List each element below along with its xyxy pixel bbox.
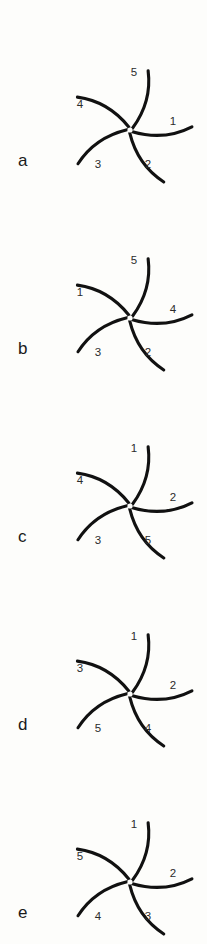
sector-label: 3 — [95, 346, 101, 358]
pinwheel-arm-4 — [78, 318, 127, 352]
pinwheel-arm-1 — [132, 447, 148, 505]
sector-label: 1 — [77, 286, 83, 298]
sector-label: 1 — [131, 442, 137, 454]
sector-label: 3 — [95, 158, 101, 170]
pinwheel-diagram-a: 12345 — [0, 0, 207, 188]
pinwheel-hub — [127, 879, 132, 884]
panel-b: b42315 — [0, 188, 207, 376]
pinwheel-arm-2 — [132, 879, 191, 888]
pinwheel-diagram-b: 42315 — [0, 188, 207, 376]
pinwheel-arm-2 — [132, 315, 191, 324]
pinwheel-diagram-d: 24531 — [0, 564, 207, 752]
panel-a: a12345 — [0, 0, 207, 188]
pinwheel-arm-5 — [77, 97, 129, 127]
sector-label: 2 — [170, 491, 176, 503]
panel-c: c25341 — [0, 376, 207, 564]
pinwheel-hub — [127, 691, 132, 696]
pinwheel-diagram-e: 23451 — [0, 752, 207, 940]
pinwheel-arm-2 — [132, 691, 191, 700]
sector-label: 4 — [77, 474, 84, 486]
sector-label: 4 — [170, 303, 177, 315]
sector-label: 3 — [95, 534, 101, 546]
sector-label: 2 — [145, 346, 151, 358]
pinwheel-arm-1 — [132, 635, 148, 693]
figure-root: a12345b42315c25341d24531e23451 — [0, 0, 207, 944]
pinwheel-arm-4 — [78, 506, 127, 540]
sector-label: 2 — [145, 158, 151, 170]
pinwheel-arm-2 — [132, 127, 191, 136]
pinwheel-arm-4 — [78, 882, 127, 916]
pinwheel-arm-2 — [132, 503, 191, 512]
sector-label: 4 — [95, 910, 102, 922]
sector-label: 4 — [77, 98, 84, 110]
sector-label: 5 — [95, 722, 101, 734]
pinwheel-arm-5 — [77, 473, 129, 503]
pinwheel-arm-4 — [78, 130, 127, 164]
pinwheel-arm-5 — [77, 661, 129, 691]
sector-label: 5 — [77, 850, 83, 862]
pinwheel-hub — [127, 503, 132, 508]
sector-label: 3 — [145, 910, 151, 922]
panel-d: d24531 — [0, 564, 207, 752]
panel-e: e23451 — [0, 752, 207, 940]
pinwheel-arm-1 — [132, 823, 148, 881]
pinwheel-arm-1 — [132, 71, 148, 129]
sector-label: 1 — [131, 818, 137, 830]
sector-label: 5 — [145, 534, 151, 546]
pinwheel-arm-5 — [77, 849, 129, 879]
sector-label: 5 — [131, 254, 137, 266]
pinwheel-arm-5 — [77, 285, 129, 315]
sector-label: 2 — [170, 867, 176, 879]
sector-label: 3 — [77, 662, 83, 674]
sector-label: 4 — [145, 722, 152, 734]
pinwheel-diagram-c: 25341 — [0, 376, 207, 564]
sector-label: 1 — [170, 115, 176, 127]
pinwheel-hub — [127, 315, 132, 320]
pinwheel-arm-1 — [132, 259, 148, 317]
pinwheel-arm-4 — [78, 694, 127, 728]
sector-label: 1 — [131, 630, 137, 642]
sector-label: 2 — [170, 679, 176, 691]
pinwheel-hub — [127, 127, 132, 132]
sector-label: 5 — [131, 66, 137, 78]
